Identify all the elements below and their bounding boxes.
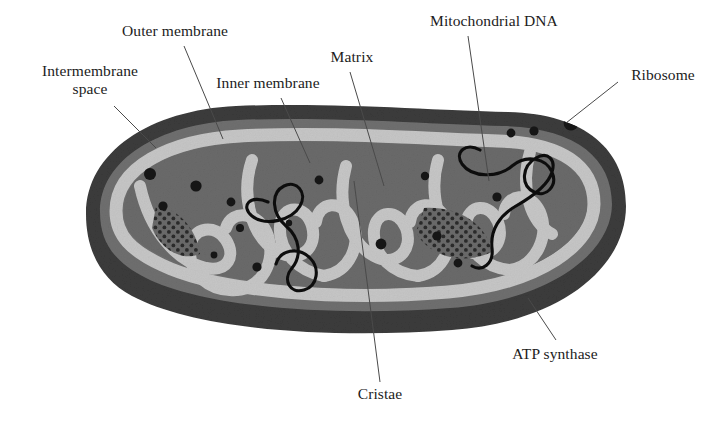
ribosome — [158, 201, 167, 210]
ribosome — [144, 168, 156, 180]
ribosome — [432, 231, 441, 240]
label-inner-membrane: Inner membrane — [216, 74, 319, 92]
ribosome — [315, 176, 324, 185]
ribosome — [227, 198, 236, 207]
label-cristae: Cristae — [358, 385, 403, 403]
ribosome — [529, 126, 538, 135]
ribosome — [236, 224, 244, 232]
ribosome — [211, 252, 218, 259]
ribosome — [252, 262, 261, 271]
label-matrix: Matrix — [331, 48, 374, 66]
label-outer-membrane: Outer membrane — [122, 22, 228, 40]
figure-canvas: Outer membrane Intermembrane space Inner… — [0, 0, 726, 429]
ribosome — [376, 239, 387, 250]
ribosome — [286, 220, 292, 226]
mitochondrion-body — [86, 105, 626, 333]
ribosome — [564, 116, 579, 131]
ribosome — [421, 172, 429, 180]
label-intermembrane-space: Intermembrane space — [42, 62, 138, 99]
ribosome — [190, 180, 201, 191]
ribosome — [492, 192, 501, 201]
leader-ribosome — [566, 82, 618, 123]
ribosome — [454, 259, 463, 268]
label-atp-synthase: ATP synthase — [512, 345, 597, 363]
label-mitochondrial-dna: Mitochondrial DNA — [430, 12, 558, 30]
ribosome — [507, 129, 516, 138]
label-ribosome: Ribosome — [631, 66, 695, 84]
